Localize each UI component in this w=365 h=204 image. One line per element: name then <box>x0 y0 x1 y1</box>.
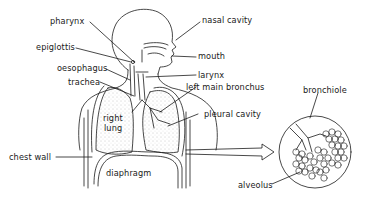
label-pleural-cavity: pleural cavity <box>204 110 261 118</box>
label-left-main-bronchus: left main bronchus <box>186 83 264 91</box>
label-pharynx: pharynx <box>50 17 84 25</box>
anatomy-illustration <box>0 0 365 204</box>
label-right-lung-line1: right <box>103 114 123 122</box>
label-larynx: larynx <box>198 71 224 79</box>
respiratory-system-diagram: pharynx nasal cavity epiglottis mouth oe… <box>0 0 365 204</box>
label-trachea: trachea <box>68 78 100 86</box>
label-oesophagus: oesophagus <box>57 64 107 72</box>
label-nasal-cavity: nasal cavity <box>202 16 252 24</box>
label-alveolus: alveolus <box>238 181 273 189</box>
arrow-to-inset <box>186 144 274 160</box>
label-diaphragm: diaphragm <box>106 169 151 177</box>
label-mouth: mouth <box>198 52 225 60</box>
label-bronchiole: bronchiole <box>303 86 347 94</box>
label-right-lung-line2: lung <box>104 124 122 132</box>
label-chest-wall: chest wall <box>9 153 51 161</box>
head-outline <box>112 9 176 74</box>
left-lung <box>143 91 180 153</box>
label-epiglottis: epiglottis <box>36 43 75 51</box>
